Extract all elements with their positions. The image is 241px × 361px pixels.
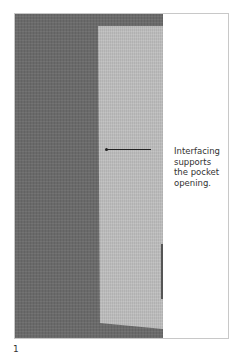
callout-leader-line [106, 149, 151, 150]
callout-text: Interfacing supports the pocket opening. [174, 146, 234, 188]
callout-line: opening. [174, 178, 234, 189]
interfacing-strip [98, 26, 163, 329]
seam-edge [161, 244, 163, 299]
callout-line: Interfacing [174, 146, 234, 157]
callout-line: the pocket [174, 167, 234, 178]
callout-line: supports [174, 157, 234, 168]
figure-number: 1 [13, 344, 19, 354]
